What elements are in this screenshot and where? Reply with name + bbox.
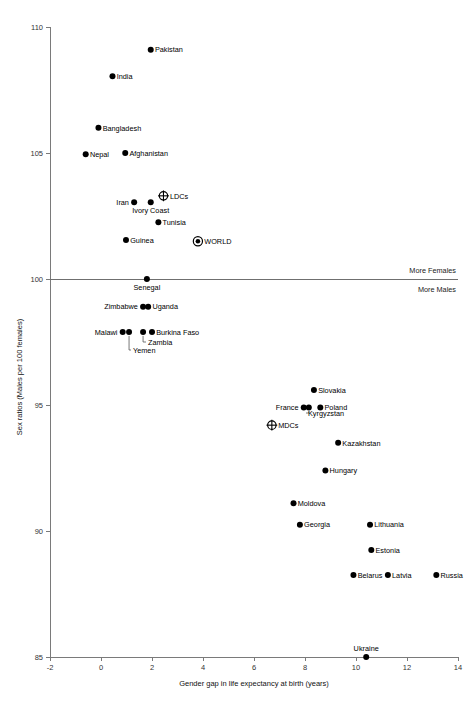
point-label-latvia: Latvia xyxy=(392,571,412,580)
data-points-group: PakistanIndiaBangladeshNepalAfghanistanL… xyxy=(83,45,464,660)
point-marker xyxy=(368,547,374,553)
point-label-russia: Russia xyxy=(441,571,464,580)
y-tick-label: 95 xyxy=(35,401,43,410)
point-label-belarus: Belarus xyxy=(358,571,383,580)
point-marker xyxy=(126,329,132,335)
point-label-ivory-coast: Ivory Coast xyxy=(132,206,169,215)
data-point-georgia[interactable]: Georgia xyxy=(297,520,331,529)
point-label-malawi: Malawi xyxy=(95,328,118,337)
more-males-label: More Males xyxy=(418,285,456,294)
x-tick-label: 0 xyxy=(99,663,103,672)
data-point-pakistan[interactable]: Pakistan xyxy=(148,45,183,54)
point-label-georgia: Georgia xyxy=(304,520,331,529)
point-label-yemen: Yemen xyxy=(133,346,155,355)
point-marker xyxy=(140,329,146,335)
point-label-iran: Iran xyxy=(116,198,129,207)
point-label-afghanistan: Afghanistan xyxy=(129,149,168,158)
data-point-afghanistan[interactable]: Afghanistan xyxy=(122,149,168,158)
point-marker xyxy=(145,304,151,310)
point-label-world: WORLD xyxy=(204,237,231,246)
point-label-nepal: Nepal xyxy=(90,150,109,159)
point-marker xyxy=(322,468,328,474)
data-point-world[interactable]: WORLD xyxy=(193,237,231,246)
x-tick-label: -2 xyxy=(47,663,54,672)
point-marker xyxy=(95,125,101,131)
point-marker xyxy=(291,500,297,506)
point-marker xyxy=(148,47,154,53)
point-label-mdcs: MDCs xyxy=(278,421,299,430)
x-tick-label: 8 xyxy=(303,663,307,672)
data-point-hungary[interactable]: Hungary xyxy=(322,466,357,475)
point-marker xyxy=(385,572,391,578)
data-point-russia[interactable]: Russia xyxy=(433,571,463,580)
point-marker xyxy=(311,387,317,393)
axis-titles-group: Gender gap in life expectancy at birth (… xyxy=(15,318,329,688)
point-label-india: India xyxy=(117,72,134,81)
x-tick-label: 4 xyxy=(201,663,205,672)
data-point-estonia[interactable]: Estonia xyxy=(368,546,400,555)
y-tick-label: 110 xyxy=(31,23,43,32)
point-marker xyxy=(367,522,373,528)
x-tick-label: 10 xyxy=(352,663,360,672)
point-label-lithuania: Lithuania xyxy=(374,520,405,529)
point-marker xyxy=(123,237,129,243)
y-tick-label: 90 xyxy=(35,527,43,536)
data-point-india[interactable]: India xyxy=(109,72,133,81)
point-marker xyxy=(131,199,137,205)
data-point-belarus[interactable]: Belarus xyxy=(350,571,382,580)
reference-line-group: More FemalesMore Males xyxy=(50,266,458,294)
point-label-bangladesh: Bangladesh xyxy=(103,124,142,133)
x-tick-label: 2 xyxy=(150,663,154,672)
point-marker xyxy=(149,329,155,335)
data-point-bangladesh[interactable]: Bangladesh xyxy=(95,124,141,133)
data-point-kazakhstan[interactable]: Kazakhstan xyxy=(335,439,380,448)
data-point-latvia[interactable]: Latvia xyxy=(385,571,413,580)
data-point-moldova[interactable]: Moldova xyxy=(291,499,327,508)
point-label-burkina-faso: Burkina Faso xyxy=(156,328,199,337)
point-label-tunisia: Tunisia xyxy=(163,218,187,227)
point-label-senegal: Senegal xyxy=(134,283,161,292)
point-marker xyxy=(433,572,439,578)
x-axis-title: Gender gap in life expectancy at birth (… xyxy=(179,679,329,688)
point-marker xyxy=(363,654,369,660)
data-point-burkina-faso[interactable]: Burkina Faso xyxy=(149,328,199,337)
data-point-ldcs[interactable]: LDCs xyxy=(158,190,188,201)
y-tick-label: 100 xyxy=(30,275,43,284)
data-point-nepal[interactable]: Nepal xyxy=(83,150,110,159)
data-point-ukraine[interactable]: Ukraine xyxy=(354,644,379,661)
data-point-france[interactable]: France xyxy=(276,403,307,412)
y-tick-label: 105 xyxy=(30,149,43,158)
point-label-kazakhstan: Kazakhstan xyxy=(342,439,380,448)
data-point-senegal[interactable]: Senegal xyxy=(134,276,161,292)
data-point-mdcs[interactable]: MDCs xyxy=(266,420,298,431)
point-marker xyxy=(83,151,89,157)
point-label-france: France xyxy=(276,403,299,412)
data-point-ivory-coast[interactable]: Ivory Coast xyxy=(132,199,169,215)
point-marker xyxy=(148,199,154,205)
data-point-guinea[interactable]: Guinea xyxy=(123,236,155,245)
point-marker xyxy=(122,150,128,156)
data-point-zimbabwe[interactable]: Zimbabwe xyxy=(104,302,146,311)
point-label-poland: Poland xyxy=(325,403,348,412)
label-leader-line xyxy=(143,336,146,342)
point-label-pakistan: Pakistan xyxy=(155,45,183,54)
point-marker xyxy=(350,572,356,578)
y-axis-title: Sex ratios (Males per 100 females) xyxy=(15,318,24,435)
point-label-hungary: Hungary xyxy=(330,466,358,475)
point-marker xyxy=(317,405,323,411)
data-point-tunisia[interactable]: Tunisia xyxy=(155,218,186,227)
point-label-zimbabwe: Zimbabwe xyxy=(104,302,138,311)
x-tick-label: 14 xyxy=(454,663,462,672)
x-tick-label: 6 xyxy=(252,663,256,672)
point-label-estonia: Estonia xyxy=(376,546,401,555)
data-point-slovakia[interactable]: Slovakia xyxy=(311,386,347,395)
point-label-uganda: Uganda xyxy=(152,302,179,311)
point-label-ldcs: LDCs xyxy=(170,192,189,201)
data-point-malawi[interactable]: Malawi xyxy=(95,328,126,337)
data-point-lithuania[interactable]: Lithuania xyxy=(367,520,405,529)
point-marker xyxy=(144,276,150,282)
point-marker xyxy=(297,522,303,528)
data-point-uganda[interactable]: Uganda xyxy=(145,302,179,311)
point-label-zambia: Zambia xyxy=(148,338,173,347)
more-females-label: More Females xyxy=(409,266,456,275)
